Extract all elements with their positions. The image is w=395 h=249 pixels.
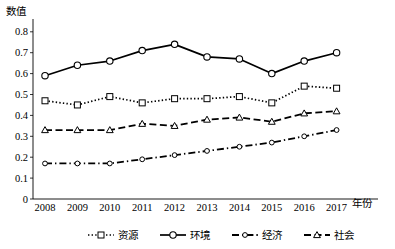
data-point-经济-2015	[269, 140, 274, 145]
chart-figure: 数值 年份 00.10.20.30.40.50.60.70.8 20082009…	[0, 0, 395, 249]
data-point-经济-2013	[205, 149, 210, 154]
legend-marker-资源	[98, 232, 104, 238]
x-tick-2008: 2008	[35, 202, 56, 213]
data-point-资源-2015	[269, 100, 275, 106]
x-tick-2012: 2012	[164, 202, 185, 213]
data-point-资源-2017	[334, 85, 340, 91]
data-point-经济-2008	[43, 161, 48, 166]
data-point-资源-2011	[139, 100, 145, 106]
data-point-环境-2012	[171, 41, 177, 47]
data-point-环境-2011	[139, 47, 145, 53]
data-point-资源-2010	[107, 94, 113, 100]
y-tick-0.8: 0.8	[15, 26, 28, 37]
data-point-环境-2010	[107, 58, 113, 64]
data-point-环境-2014	[236, 56, 242, 62]
y-tick-0.4: 0.4	[15, 110, 29, 121]
data-point-经济-2010	[107, 161, 112, 166]
legend-label-资源: 资源	[118, 229, 139, 241]
x-tick-2015: 2015	[261, 202, 282, 213]
y-tick-0.5: 0.5	[15, 89, 28, 100]
y-tick-0: 0	[23, 194, 28, 205]
legend-label-社会: 社会	[334, 229, 355, 241]
data-point-经济-2016	[302, 134, 307, 139]
data-point-环境-2015	[269, 70, 275, 76]
data-point-环境-2017	[333, 50, 339, 56]
data-point-环境-2013	[204, 54, 210, 60]
y-tick-0.2: 0.2	[15, 152, 28, 163]
x-tick-2016: 2016	[294, 202, 315, 213]
x-tick-2009: 2009	[67, 202, 88, 213]
data-point-经济-2014	[237, 144, 242, 149]
data-point-经济-2011	[140, 157, 145, 162]
x-tick-2017: 2017	[326, 202, 347, 213]
legend-marker-经济	[243, 233, 248, 238]
y-tick-0.7: 0.7	[15, 47, 28, 58]
y-tick-0.1: 0.1	[15, 173, 28, 184]
data-point-经济-2017	[334, 128, 339, 133]
data-point-环境-2008	[42, 72, 48, 78]
y-tick-0.3: 0.3	[15, 131, 28, 142]
data-point-环境-2009	[74, 62, 80, 68]
data-point-经济-2012	[172, 153, 177, 158]
data-point-资源-2016	[301, 83, 307, 89]
x-tick-2014: 2014	[229, 202, 251, 213]
legend-marker-环境	[170, 232, 176, 238]
line-chart: 数值 年份 00.10.20.30.40.50.60.70.8 20082009…	[0, 0, 395, 249]
x-tick-2013: 2013	[197, 202, 218, 213]
legend-label-环境: 环境	[190, 229, 210, 241]
legend-label-经济: 经济	[262, 229, 283, 241]
data-point-资源-2012	[172, 96, 178, 102]
data-point-环境-2016	[301, 58, 307, 64]
y-axis-title: 数值	[6, 5, 27, 17]
x-tick-2010: 2010	[99, 202, 120, 213]
y-tick-0.6: 0.6	[15, 68, 28, 79]
data-point-资源-2013	[204, 96, 210, 102]
x-tick-2011: 2011	[132, 202, 153, 213]
data-point-资源-2014	[236, 94, 242, 100]
data-point-资源-2009	[74, 102, 80, 108]
data-point-资源-2008	[42, 98, 48, 104]
data-point-经济-2009	[75, 161, 80, 166]
